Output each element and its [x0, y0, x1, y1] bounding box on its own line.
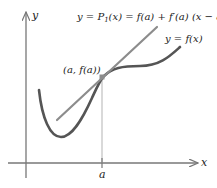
- tangent-point: [100, 75, 105, 80]
- x-tick-label-a: a: [99, 168, 106, 181]
- curve-label: y = f(x): [164, 33, 203, 44]
- tangent-equation-label: y = P1(x) = f(a) + f′(a) (x − a): [76, 11, 217, 24]
- point-label: (a, f(a)): [63, 64, 101, 75]
- x-axis-label: x: [201, 156, 208, 169]
- tangent-line-diagram: y x a y = P1(x) = f(a) + f′(a) (x − a) y…: [0, 0, 217, 188]
- y-axis-label: y: [31, 9, 39, 22]
- curve-f: [39, 47, 180, 137]
